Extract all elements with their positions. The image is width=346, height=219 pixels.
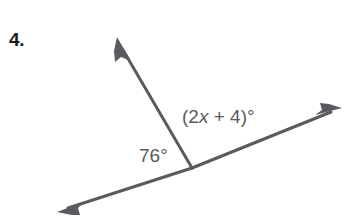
angle-expr-suffix: + 4)°	[208, 106, 254, 127]
angle-figure	[0, 0, 346, 219]
arrowhead-upper-left-icon	[114, 37, 131, 62]
transversal-line-segment	[68, 168, 192, 208]
arrowhead-lower-left-icon	[57, 202, 84, 215]
worksheet-page: 4. 76° (2x + 4)°	[0, 0, 346, 219]
angle-label-left: 76°	[139, 146, 168, 165]
angle-expr-prefix: (2	[182, 106, 199, 127]
angle-expr-variable: x	[199, 106, 209, 127]
angle-label-right: (2x + 4)°	[182, 107, 255, 126]
